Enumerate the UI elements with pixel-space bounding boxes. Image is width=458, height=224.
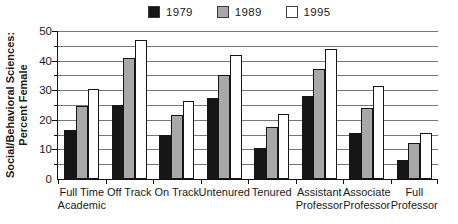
bar-1989 — [313, 69, 325, 179]
y-tick-minor — [54, 135, 57, 136]
x-tick — [201, 179, 202, 184]
legend-swatch-1989-icon — [217, 6, 229, 18]
bar-1995 — [183, 101, 195, 179]
bar-1989 — [171, 115, 183, 179]
legend-label: 1979 — [166, 6, 193, 18]
bar-1989 — [123, 58, 135, 179]
bar-1979 — [112, 105, 124, 179]
gridline — [58, 61, 438, 62]
y-tick-label: 30 — [32, 84, 52, 96]
x-tick — [153, 179, 154, 184]
bar-1979 — [207, 98, 219, 179]
y-axis-title-line1: Social/Behavioral Sciences: — [4, 32, 16, 178]
y-tick-label: 40 — [32, 55, 52, 67]
bar-1979 — [64, 130, 76, 179]
bar-chart-figure: 1979 1989 1995 Social/Behavioral Science… — [0, 0, 458, 224]
bar-1989 — [218, 75, 230, 179]
bar-1995 — [373, 86, 385, 179]
y-tick-major — [52, 61, 57, 62]
bar-1979 — [254, 148, 266, 179]
x-tick — [58, 179, 59, 184]
y-axis-title: Social/Behavioral Sciences:Percent Femal… — [4, 30, 30, 180]
y-tick-major — [52, 120, 57, 121]
bar-1989 — [361, 108, 373, 179]
x-tick — [248, 179, 249, 184]
x-tick — [343, 179, 344, 184]
gridline — [58, 46, 438, 47]
bar-1979 — [159, 135, 171, 179]
legend-label: 1995 — [304, 6, 331, 18]
bar-1995 — [325, 49, 337, 179]
bar-1989 — [76, 106, 88, 179]
bar-1979 — [349, 133, 361, 179]
legend-item-1995: 1995 — [286, 6, 331, 18]
x-tick — [296, 179, 297, 184]
x-tick — [106, 179, 107, 184]
y-tick-minor — [54, 105, 57, 106]
bar-1989 — [266, 127, 278, 179]
y-tick-label: 10 — [32, 143, 52, 155]
bar-1989 — [408, 143, 420, 179]
y-tick-major — [52, 90, 57, 91]
legend-label: 1989 — [235, 6, 262, 18]
legend-item-1989: 1989 — [217, 6, 262, 18]
x-category-label: Full Professor — [381, 186, 447, 211]
bar-1979 — [397, 160, 409, 179]
bar-1995 — [420, 133, 432, 179]
chart-legend: 1979 1989 1995 — [148, 6, 330, 18]
legend-swatch-1995-icon — [286, 6, 298, 18]
legend-item-1979: 1979 — [148, 6, 193, 18]
y-tick-minor — [54, 164, 57, 165]
x-tick — [437, 179, 438, 184]
y-tick-minor — [54, 46, 57, 47]
y-tick-label: 50 — [32, 25, 52, 37]
y-tick-label: 0 — [32, 173, 52, 185]
bar-1995 — [135, 40, 147, 179]
bar-1995 — [230, 55, 242, 179]
gridline — [58, 75, 438, 76]
bar-1995 — [88, 89, 100, 179]
legend-swatch-1979-icon — [148, 6, 160, 18]
bar-1995 — [278, 114, 290, 179]
x-tick — [391, 179, 392, 184]
y-axis-title-line2: Percent Female — [17, 64, 29, 145]
y-tick-label: 20 — [32, 114, 52, 126]
y-tick-major — [52, 149, 57, 150]
bar-1979 — [302, 96, 314, 179]
y-tick-minor — [54, 75, 57, 76]
gridline — [58, 31, 438, 32]
plot-area: 01020304050Full Time AcademicOff TrackOn… — [57, 31, 438, 180]
y-tick-major — [52, 31, 57, 32]
